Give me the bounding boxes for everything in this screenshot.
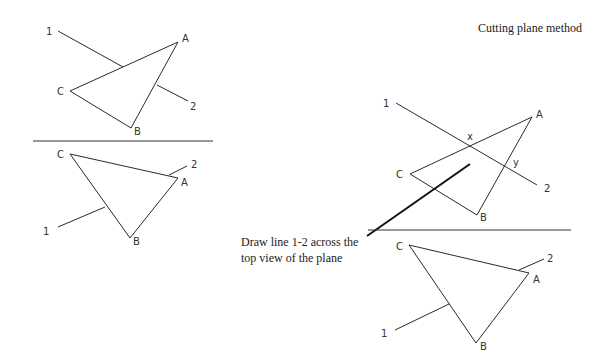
- label-a: A: [182, 33, 189, 44]
- right-front-line-2: [519, 259, 544, 270]
- label-2: 2: [191, 159, 197, 170]
- label-1: 1: [46, 26, 52, 37]
- left-top-line-2: [157, 85, 188, 101]
- cutting-plane-diagram: A C B 1 2 C A B 2 1 A C B 1 2 x y C A: [0, 0, 608, 354]
- right-top-view: A C B 1 2 x y: [367, 98, 550, 236]
- left-top-view: A C B 1 2: [46, 26, 196, 137]
- label-c: C: [57, 149, 64, 160]
- left-front-line-1: [58, 207, 105, 227]
- label-a: A: [533, 274, 540, 285]
- label-b: B: [133, 236, 140, 247]
- label-2: 2: [190, 101, 196, 112]
- label-y: y: [513, 157, 519, 168]
- label-a: A: [181, 177, 188, 188]
- caption-line-1: Draw line 1-2 across the: [241, 234, 358, 250]
- left-top-triangle: [70, 42, 178, 128]
- label-1: 1: [381, 328, 387, 339]
- left-front-line-2: [169, 166, 187, 175]
- label-b: B: [480, 341, 487, 352]
- label-b: B: [134, 126, 141, 137]
- label-b: B: [480, 212, 487, 223]
- label-2: 2: [547, 253, 553, 264]
- left-front-view: C A B 2 1: [43, 149, 197, 247]
- left-top-line-1: [58, 31, 123, 67]
- label-c: C: [396, 241, 403, 252]
- right-front-triangle: [409, 245, 529, 343]
- right-front-view: C A B 2 1: [381, 241, 553, 352]
- label-1: 1: [43, 226, 49, 237]
- right-top-line-1-2: [396, 103, 537, 185]
- left-front-triangle: [70, 154, 178, 238]
- diagram-title: Cutting plane method: [478, 20, 582, 36]
- label-x: x: [467, 131, 473, 142]
- label-1: 1: [383, 98, 389, 109]
- cutting-plane-line: [367, 164, 470, 236]
- label-2: 2: [544, 183, 550, 194]
- caption-line-2: top view of the plane: [241, 250, 342, 266]
- right-front-line-1: [395, 304, 449, 330]
- label-a: A: [536, 109, 543, 120]
- label-c: C: [57, 86, 64, 97]
- label-c: C: [396, 169, 403, 180]
